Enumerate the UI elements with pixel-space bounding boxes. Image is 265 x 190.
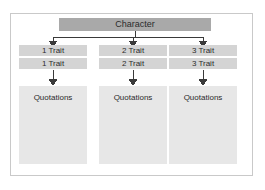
trait-node-column-2-primary[interactable]: 2 Trait <box>99 45 167 56</box>
quotation-node-column-2[interactable]: Quotations <box>99 86 167 164</box>
arrowhead-col3-quotation <box>199 79 207 85</box>
arrowhead-col2-quotation <box>129 79 137 85</box>
trait-node-column-1-secondary[interactable]: 1 Trait <box>19 58 87 69</box>
trait-node-column-3-secondary[interactable]: 3 Trait <box>169 58 237 69</box>
diagram-frame: Character 1 Trait 1 Trait Quotations 2 T… <box>10 13 253 176</box>
quotation-node-column-3[interactable]: Quotations <box>169 86 237 164</box>
root-node-character[interactable]: Character <box>59 18 211 31</box>
quotation-node-column-1[interactable]: Quotations <box>19 86 87 164</box>
trait-node-column-3-primary[interactable]: 3 Trait <box>169 45 237 56</box>
trait-node-column-2-secondary[interactable]: 2 Trait <box>99 58 167 69</box>
arrowhead-col1-quotation <box>49 79 57 85</box>
trait-node-column-1-primary[interactable]: 1 Trait <box>19 45 87 56</box>
